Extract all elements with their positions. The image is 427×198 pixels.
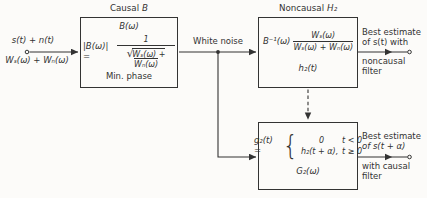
input-signal-label: s(t) + n(t) <box>2 36 64 46</box>
box2-eq-fraction: Wₛ(ω) Wₛ(ω) + Wₙ(ω) <box>293 31 353 52</box>
output-bottom-line1: Best estimate <box>362 131 426 141</box>
output-top-terminal-node <box>408 50 412 54</box>
output-top-line3: noncausal <box>362 56 426 66</box>
box1-min-phase-note: Min. phase <box>106 72 152 82</box>
piecewise-brace: { <box>283 134 298 157</box>
box3-cases: 0 t < 0 h₂(t + α), t ≥ 0 <box>301 136 362 155</box>
output-top-caption-upper: Best estimate of s(t) with <box>362 27 426 47</box>
box3-case2-value: h₂(t + α), <box>301 147 338 156</box>
box3-case2: h₂(t + α), t ≥ 0 <box>301 147 362 156</box>
output-top-line4: filter <box>362 66 426 76</box>
box1-magnitude-equation: |B(ω)| = 1 √Wₛ(ω) + Wₙ(ω) <box>83 35 175 69</box>
whitening-filter-box: B(ω) |B(ω)| = 1 √Wₛ(ω) + Wₙ(ω) Min. phas… <box>80 17 178 88</box>
output-bottom-line4: filter <box>362 171 426 181</box>
diagram-canvas: s(t) + n(t) Wₛ(ω) + Wₙ(ω) White noise Ca… <box>0 0 427 198</box>
box1-eq-lhs: |B(ω)| = <box>83 42 114 62</box>
noncausal-filter-box: B⁻¹(ω) Wₛ(ω) Wₛ(ω) + Wₙ(ω) h₂(t) <box>258 17 358 88</box>
output-top-arrowhead-icon <box>385 49 392 55</box>
whitening-filter-title-var: B <box>142 3 148 13</box>
noncausal-filter-title: NoncausalH₂ <box>258 3 358 13</box>
output-top-line1: Best estimate <box>362 27 426 37</box>
box1-eq-fraction: 1 √Wₛ(ω) + Wₙ(ω) <box>117 35 175 69</box>
box1-eq-radicand: Wₛ(ω) + Wₙ(ω) <box>132 48 165 68</box>
output-top-line2: of s(t) with <box>362 37 426 47</box>
output-bottom-terminal-node <box>408 155 412 159</box>
box2-eq-denominator: Wₛ(ω) + Wₙ(ω) <box>293 42 353 52</box>
box1-eq-numerator: 1 <box>117 35 175 46</box>
box2-eq-numerator: Wₛ(ω) <box>293 31 353 42</box>
box3-case1: 0 t < 0 <box>301 136 362 145</box>
box3-case1-value: 0 <box>301 136 342 145</box>
output-bottom-caption-lower: with causal filter <box>362 161 426 181</box>
box1-eq-denominator: √Wₛ(ω) + Wₙ(ω) <box>117 46 175 68</box>
box3-transfer-function: G₂(ω) <box>296 167 320 177</box>
branch-wire <box>218 52 256 157</box>
output-top-caption-lower: noncausal filter <box>362 56 426 76</box>
output-bottom-arrowhead-icon <box>385 154 392 160</box>
input-spectrum-label: Wₛ(ω) + Wₙ(ω) <box>0 56 74 66</box>
whitening-filter-title: CausalB <box>80 3 178 13</box>
output-bottom-line2: of s(t + α) <box>362 141 426 151</box>
output-bottom-caption-upper: Best estimate of s(t + α) <box>362 131 426 151</box>
output-bottom-line3: with causal <box>362 161 426 171</box>
noncausal-filter-title-text: Noncausal <box>279 3 324 13</box>
noncausal-filter-title-var: H₂ <box>327 3 337 13</box>
whitening-filter-title-text: Causal <box>110 3 139 13</box>
box3-case2-condition: t ≥ 0 <box>342 147 362 156</box>
box3-case1-condition: t < 0 <box>342 136 362 145</box>
white-noise-label: White noise <box>183 37 253 47</box>
box1-transfer-function: B(ω) <box>119 22 139 32</box>
causal-filter-box: g₂(t) = { 0 t < 0 h₂(t + α), t ≥ 0 G₂(ω) <box>258 122 358 190</box>
input-terminal-node <box>25 50 29 54</box>
box2-eq-prefix: B⁻¹(ω) <box>263 37 290 47</box>
box2-impulse-response: h₂(t) <box>299 64 318 74</box>
box3-piecewise-equation: g₂(t) = { 0 t < 0 h₂(t + α), t ≥ 0 <box>254 135 362 157</box>
box2-transfer-equation: B⁻¹(ω) Wₛ(ω) Wₛ(ω) + Wₙ(ω) <box>263 31 353 52</box>
dashed-arrowhead-icon <box>305 113 311 120</box>
box3-eq-lhs: g₂(t) = <box>254 136 280 156</box>
